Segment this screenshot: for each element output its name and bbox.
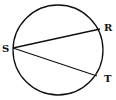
- point-label-t: T: [104, 73, 112, 84]
- point-label-s: S: [2, 43, 9, 54]
- chord-sr: [13, 29, 100, 48]
- circle: [13, 5, 103, 95]
- point-label-r: R: [104, 22, 113, 33]
- chord-st: [13, 48, 97, 76]
- circle-diagram: S R T: [0, 0, 116, 100]
